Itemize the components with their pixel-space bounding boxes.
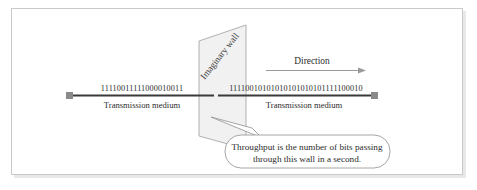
diagram-canvas: 11110011111000010011 Transmission medium…: [0, 0, 477, 190]
right-terminal-square: [371, 92, 378, 99]
right-bitstring: 11110010101010101010101111100010: [229, 84, 363, 93]
right-medium-label: Transmission medium: [266, 100, 343, 110]
left-terminal-square: [66, 92, 73, 99]
left-medium-label: Transmission medium: [104, 100, 181, 110]
callout-line-2: through this wall in a second.: [253, 154, 361, 164]
callout-line-1: Throughput is the number of bits passing: [231, 142, 382, 152]
arrow-right-icon: [358, 68, 366, 74]
direction-label: Direction: [294, 56, 330, 66]
figure-container: 11110011111000010011 Transmission medium…: [0, 0, 477, 190]
left-bitstring: 11110011111000010011: [101, 84, 183, 93]
